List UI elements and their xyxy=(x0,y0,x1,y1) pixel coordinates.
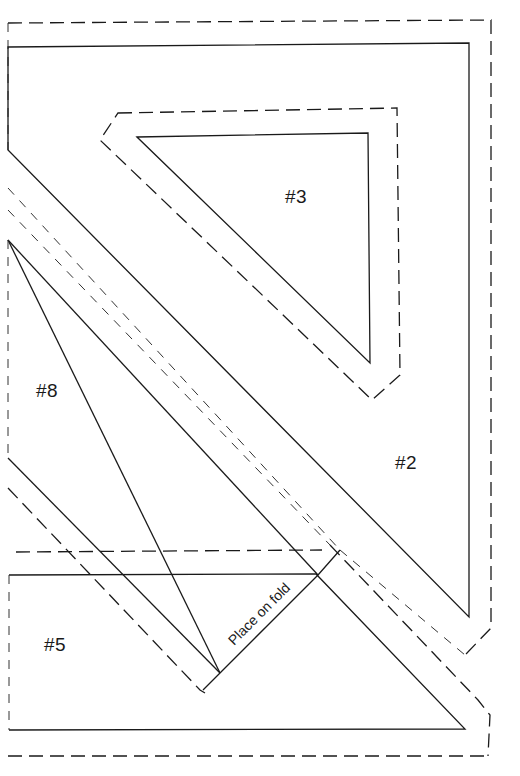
piece-2-outline xyxy=(8,43,469,617)
band-dash-1 xyxy=(8,188,340,550)
piece-2-label: #2 xyxy=(395,452,417,474)
piece-3-outline xyxy=(137,133,370,363)
band-dash-4 xyxy=(340,550,465,655)
band-dash-2 xyxy=(8,210,330,545)
pattern-drawing xyxy=(0,0,520,776)
piece-3-label: #3 xyxy=(285,186,307,208)
piece-8-lower-seam xyxy=(8,488,205,693)
band-dash-3 xyxy=(330,545,490,756)
piece-8-label: #8 xyxy=(36,380,58,402)
piece-5-seam-allowance xyxy=(16,550,322,552)
piece-8-upper-diagonal-b xyxy=(8,240,318,575)
piece-3-seam-allowance xyxy=(100,108,400,400)
piece-5-label: #5 xyxy=(44,634,66,656)
piece-8-lower-diagonal xyxy=(8,458,220,673)
piece-8-upper-diagonal xyxy=(8,240,220,673)
fold-line xyxy=(203,550,340,690)
outer-seam-allowance xyxy=(8,20,491,655)
